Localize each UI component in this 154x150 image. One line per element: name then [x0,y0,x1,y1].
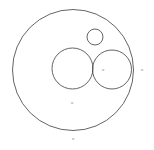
outer-boundary-circle [13,10,134,131]
label-bottom: o [72,137,74,141]
label-outer-right: o [141,68,143,72]
medium-inner-circle [93,50,132,89]
label-inner-tangency: o [102,68,104,72]
small-inner-circle [87,29,103,45]
circle-packing-figure [0,0,154,150]
large-inner-circle [52,48,93,89]
diagram-canvas: o o o o [0,0,154,150]
label-lower-center: o [71,101,73,105]
